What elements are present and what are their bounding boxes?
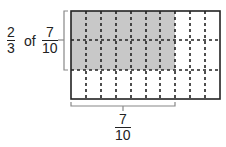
numerator: 7	[46, 26, 54, 39]
left-bracket	[64, 11, 68, 70]
fraction-seven-tenths-left: 7 10	[42, 26, 58, 55]
denominator: 10	[42, 42, 58, 55]
numerator: 7	[119, 113, 127, 126]
fraction-seven-tenths-bottom: 7 10	[115, 113, 131, 142]
fraction-area-model	[0, 0, 226, 147]
fraction-two-thirds: 2 3	[7, 26, 15, 55]
denominator: 10	[115, 129, 131, 142]
of-text: of	[24, 33, 36, 49]
bottom-bracket	[71, 102, 175, 106]
denominator: 3	[7, 42, 15, 55]
numerator: 2	[7, 26, 15, 39]
